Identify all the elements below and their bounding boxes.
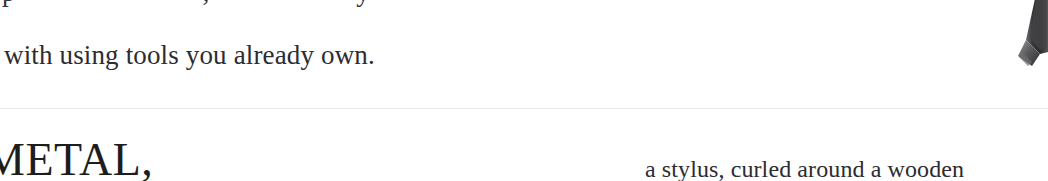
right-column-text-line: a stylus, curled around a wooden	[600, 158, 1048, 181]
clipped-glyph-fragment-c: y	[356, 0, 370, 7]
body-text-line: with using tools you already own.	[4, 38, 375, 72]
tool-tip-photo	[996, 0, 1048, 76]
clipped-glyph-fragment-a: p	[2, 0, 16, 7]
clipped-glyph-fragment-b: ,	[202, 0, 209, 7]
document-page: p , y with using tools you already own. …	[0, 0, 1048, 181]
right-column-text: a stylus, curled around a wooden	[645, 158, 964, 181]
horizontal-rule-divider	[0, 108, 1048, 109]
clipped-text-line-top: p , y	[0, 0, 1048, 14]
section-heading-text: METAL,	[0, 140, 153, 181]
section-heading: METAL,	[0, 140, 340, 181]
